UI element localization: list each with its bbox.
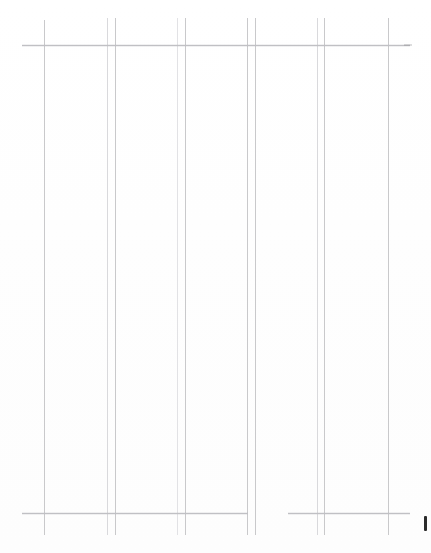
scanned-page: Scanned blank table form	[0, 0, 431, 553]
table-body-region	[22, 46, 410, 513]
footer-rule-right	[288, 513, 410, 514]
page-edge-mark	[424, 516, 427, 531]
footer-rule-left	[22, 513, 248, 514]
